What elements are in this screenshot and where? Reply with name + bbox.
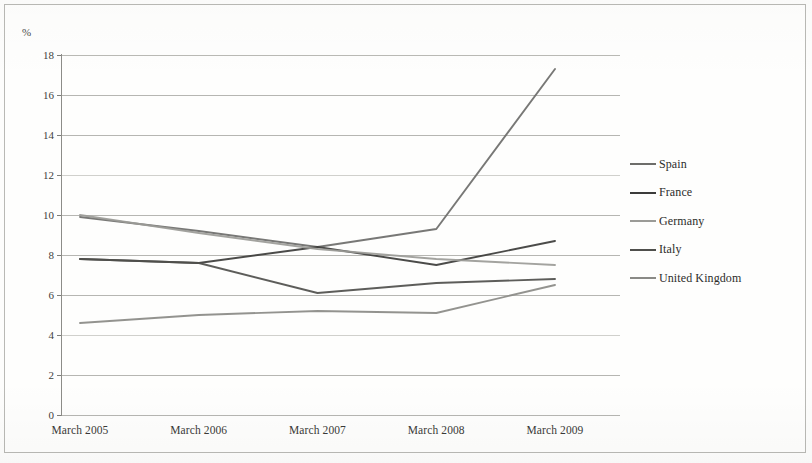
- legend-item-italy[interactable]: Italy: [630, 236, 805, 265]
- legend-item-spain[interactable]: Spain: [630, 150, 805, 179]
- legend-swatch-icon: [630, 220, 656, 222]
- legend-item-france[interactable]: France: [630, 179, 805, 208]
- legend-swatch-icon: [630, 163, 656, 165]
- legend-item-label: Spain: [659, 157, 687, 172]
- legend-swatch-icon: [630, 249, 656, 251]
- chart-screenshot: % 024681012141618 March 2005March 2006Ma…: [0, 0, 812, 463]
- legend-swatch-icon: [630, 192, 656, 194]
- legend-item-germany[interactable]: Germany: [630, 207, 805, 236]
- legend-item-label: United Kingdom: [659, 271, 741, 286]
- series-line-united-kingdom: [80, 285, 555, 323]
- legend-item-label: Italy: [659, 242, 682, 257]
- chart-legend: SpainFranceGermanyItalyUnited Kingdom: [630, 150, 805, 293]
- legend-item-label: France: [659, 185, 692, 200]
- legend-swatch-icon: [630, 277, 656, 279]
- series-line-italy: [80, 259, 555, 293]
- legend-item-united-kingdom[interactable]: United Kingdom: [630, 264, 805, 293]
- series-line-spain: [80, 69, 555, 247]
- legend-item-label: Germany: [659, 214, 704, 229]
- line-chart: % 024681012141618 March 2005March 2006Ma…: [0, 0, 812, 463]
- series-line-germany: [80, 215, 555, 265]
